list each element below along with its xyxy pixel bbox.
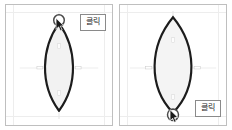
click-label-text: 클릭 [86,17,100,26]
shape-comparison-stage: 클릭 클릭 [0,0,232,130]
midline-handle-lower[interactable] [58,90,60,95]
midline-handle-lower[interactable] [172,94,174,99]
lens-shape-narrow[interactable] [45,23,73,110]
midline-handle-right[interactable] [194,67,200,69]
midline-handle-left[interactable] [146,67,152,69]
midline-handle-left[interactable] [37,67,43,69]
midline-handle-upper[interactable] [172,38,174,43]
shape-panel-left[interactable]: 클릭 [5,4,113,126]
click-label-right: 클릭 [195,100,221,117]
shape-panel-right[interactable]: 클릭 [119,4,227,126]
click-label-text: 클릭 [201,103,215,112]
click-label-left: 클릭 [80,14,106,31]
midline-handle-right[interactable] [75,67,81,69]
midline-handle-upper[interactable] [58,44,60,49]
